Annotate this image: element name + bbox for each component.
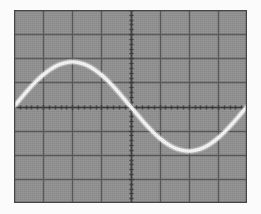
oscilloscope-screenshot bbox=[0, 0, 261, 214]
graticule-canvas bbox=[14, 10, 247, 203]
scope-screen bbox=[14, 10, 247, 203]
